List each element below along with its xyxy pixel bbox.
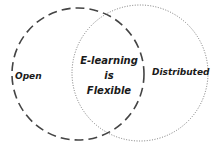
venn-diagram: Open Distributed E-learning is Flexible xyxy=(0,0,217,147)
open-label: Open xyxy=(15,71,42,81)
intersection-line-3: Flexible xyxy=(87,85,132,96)
intersection-line-1: E-learning xyxy=(80,55,138,66)
intersection-line-2: is xyxy=(104,70,113,81)
distributed-label: Distributed xyxy=(152,67,210,77)
